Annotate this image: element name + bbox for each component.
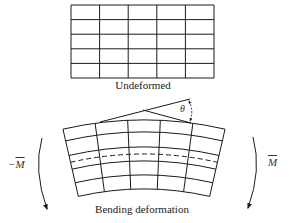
left-moment-arrow-icon [38,138,47,209]
bending-deformation-label: Bending deformation [95,203,189,215]
mesh-line-arc [72,161,216,169]
right-moment-arrow-icon [248,137,257,208]
right-moment-symbol: M [268,156,277,168]
theta-label: θ [180,103,185,114]
mesh-line-arc [75,175,213,183]
mesh-line-arc [63,120,225,129]
mesh-line-arc [78,189,209,196]
left-moment-symbol: M [15,158,24,170]
right-moment-label: M [268,156,277,168]
undeformed-label: Undeformed [115,79,171,91]
diagram-canvas [0,0,292,223]
mesh-line-arc [66,132,223,141]
theta-arc-icon [189,101,192,121]
left-moment-label: −M [8,158,25,170]
deformed-mesh [63,120,225,196]
undeformed-grid [71,5,214,78]
